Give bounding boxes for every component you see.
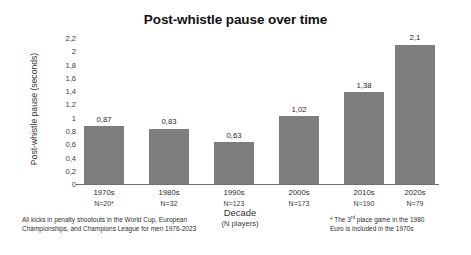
- category-label: 2000s N=173: [269, 188, 329, 209]
- y-tick-label: 0,4: [50, 153, 76, 162]
- category-name: 2020s: [404, 188, 425, 197]
- category-label: 2020s N=79: [385, 188, 445, 209]
- y-tick-label: 1,6: [50, 73, 76, 82]
- category-label: 1990s N=123: [204, 188, 264, 209]
- y-tick-label: 1,2: [50, 100, 76, 109]
- bar[interactable]: [84, 126, 124, 184]
- y-tick-label: 0,8: [50, 126, 76, 135]
- y-tick-label: 0,2: [50, 166, 76, 175]
- bar[interactable]: [344, 92, 384, 184]
- x-axis-line: [76, 184, 439, 185]
- footnote-right-pre: * The 3: [330, 216, 351, 223]
- category-name: 1980s: [158, 188, 179, 197]
- bar-chart-figure: Post-whistle pause over time Post-whistl…: [0, 0, 471, 255]
- y-axis-title: Post-whistle pause (seconds): [29, 34, 39, 184]
- footnote-right-post: place game in the 1980: [355, 216, 424, 223]
- category-name: 1970s: [93, 188, 114, 197]
- category-name: 2000s: [288, 188, 309, 197]
- y-tick-label: 2: [50, 47, 76, 56]
- footnote-left: All kicks in penalty shootouts in the Wo…: [22, 215, 237, 233]
- footnote-right-line-1: * The 3rd place game in the 1980: [330, 215, 460, 224]
- bar-value-label: 1,02: [273, 105, 325, 114]
- footnote-left-line-1: All kicks in penalty shootouts in the Wo…: [22, 215, 237, 224]
- category-label: 1980s N=32: [139, 188, 199, 209]
- bar[interactable]: [214, 142, 254, 184]
- bar-value-label: 0,63: [208, 131, 260, 140]
- footnote-right-line-2: Euro is included in the 1970s: [330, 224, 460, 233]
- category-name: 2010s: [353, 188, 374, 197]
- category-count: N=20*: [74, 199, 134, 210]
- plot-area: 0,87 0,83 0,63 1,02 1,38 2,1: [84, 38, 435, 184]
- footnote-left-line-2: Championships, and Champions League for …: [22, 224, 237, 233]
- bar-value-label: 0,87: [78, 115, 130, 124]
- bar-value-label: 1,38: [338, 81, 390, 90]
- y-tick-label: 1,4: [50, 87, 76, 96]
- footnote-right: * The 3rd place game in the 1980 Euro is…: [330, 215, 460, 233]
- bar[interactable]: [279, 116, 319, 184]
- y-tick-label: 1,8: [50, 60, 76, 69]
- category-count: N=79: [385, 199, 445, 210]
- bar[interactable]: [149, 129, 189, 184]
- bar-value-label: 0,83: [143, 117, 195, 126]
- bar[interactable]: [395, 45, 435, 184]
- y-tick-label: 0: [50, 180, 76, 189]
- y-tick-label: 1: [50, 113, 76, 122]
- y-tick-label: 0,6: [50, 140, 76, 149]
- y-tick-label: 2,2: [50, 34, 76, 43]
- category-name: 1990s: [223, 188, 244, 197]
- bar-value-label: 2,1: [389, 33, 441, 42]
- category-label: 1970s N=20*: [74, 188, 134, 209]
